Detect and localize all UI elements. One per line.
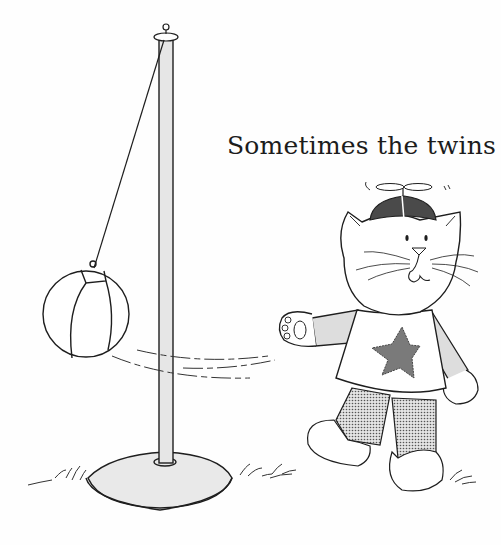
motion-lines	[112, 350, 275, 378]
tetherball-pole	[154, 24, 178, 463]
cat-eye-right	[424, 235, 427, 241]
grass-right-icon	[270, 470, 476, 484]
cat-eye-left	[405, 235, 408, 241]
cat	[279, 182, 478, 491]
book-page: Sometimes the twins	[0, 0, 501, 545]
grass-left-icon	[28, 466, 86, 485]
tether-rope	[94, 40, 164, 268]
paw	[279, 312, 316, 347]
illustration	[0, 0, 501, 545]
propeller-beanie	[366, 182, 451, 220]
tetherball	[43, 261, 129, 358]
